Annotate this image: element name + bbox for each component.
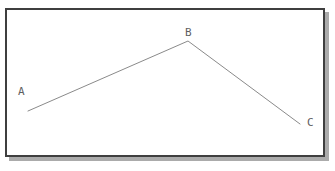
- diagram-canvas: A B C: [0, 0, 335, 171]
- diagram-frame: [5, 8, 325, 157]
- point-label-b: B: [185, 27, 192, 38]
- point-label-a: A: [18, 86, 25, 97]
- point-label-c: C: [307, 117, 314, 128]
